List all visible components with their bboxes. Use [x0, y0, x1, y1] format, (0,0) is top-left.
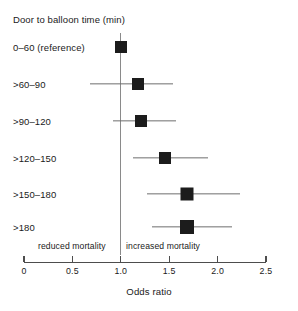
point-marker-3 — [135, 115, 147, 127]
plot-area — [0, 0, 298, 311]
x-tick-3 — [169, 256, 170, 262]
reference-line — [120, 33, 121, 255]
x-tick-label-5: 2.5 — [260, 266, 273, 276]
x-tick-label-4: 2.0 — [211, 266, 224, 276]
x-axis-line — [24, 262, 266, 263]
x-tick-4 — [217, 256, 218, 262]
point-marker-1 — [115, 41, 127, 53]
annotation-reduced-mortality: reduced mortality — [38, 241, 106, 251]
x-tick-5 — [265, 256, 266, 262]
annotation-increased-mortality: increased mortality — [126, 241, 200, 251]
x-tick-label-2: 1.0 — [114, 266, 127, 276]
x-axis-title: Odds ratio — [0, 286, 298, 297]
forest-plot-figure: Door to balloon time (min) 0–60 (referen… — [0, 0, 298, 311]
confidence-interval-5 — [147, 193, 240, 194]
x-tick-0 — [23, 256, 24, 262]
x-tick-label-0: 0 — [21, 266, 26, 276]
x-tick-label-3: 1.5 — [163, 266, 176, 276]
point-marker-5 — [180, 188, 193, 201]
x-tick-1 — [72, 256, 73, 262]
x-tick-2 — [120, 256, 121, 262]
point-marker-6 — [180, 220, 194, 234]
x-tick-label-1: 0.5 — [66, 266, 79, 276]
point-marker-2 — [132, 78, 144, 90]
point-marker-4 — [159, 152, 171, 164]
